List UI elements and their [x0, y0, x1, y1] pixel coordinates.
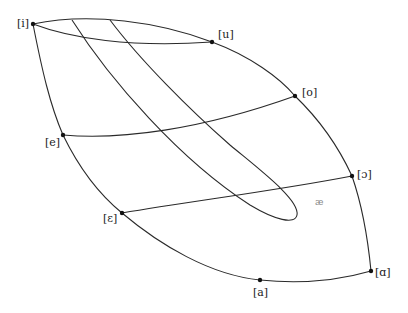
point-i [31, 22, 35, 26]
label-i: [i] [17, 17, 29, 30]
label-open-o: [ɔ] [357, 168, 372, 181]
point-alpha [369, 269, 373, 273]
outer-left-bottom-curve [33, 24, 371, 282]
i-u-inner-curve [33, 24, 212, 44]
point-epsilon [120, 211, 124, 215]
label-ae: æ [315, 197, 323, 207]
point-open-o [350, 174, 354, 178]
point-a [258, 278, 262, 282]
point-u [210, 40, 214, 44]
label-o: [o] [302, 86, 317, 99]
diagonal-loop-curve [72, 20, 297, 220]
outer-top-right-curve [33, 19, 371, 271]
point-o [293, 94, 297, 98]
label-alpha: [ɑ] [375, 266, 391, 279]
point-e [61, 133, 65, 137]
epsilon-open-o-curve [122, 176, 352, 213]
e-o-curve [63, 96, 295, 136]
vowel-diagram: [i] [u] [o] [e] [ɔ] [ɛ] [a] [ɑ] æ [0, 0, 408, 313]
label-e: [e] [45, 136, 60, 149]
label-u: [u] [218, 28, 234, 41]
label-a: [a] [253, 286, 268, 299]
label-epsilon: [ɛ] [103, 212, 117, 225]
